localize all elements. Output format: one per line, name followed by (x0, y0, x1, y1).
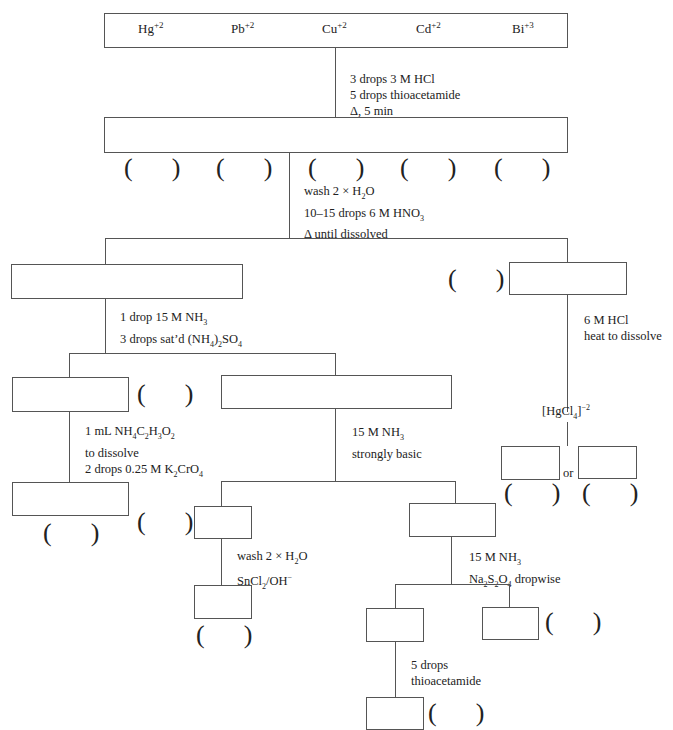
blank-formula-cd: ( ) (400, 155, 456, 181)
hg-test-result-box-2 (578, 446, 637, 479)
ion-charge: +2 (245, 20, 255, 30)
ion-cu: Cu+2 (322, 20, 347, 37)
reagent-line: 15 M NH3 (352, 424, 422, 446)
connector-line (567, 238, 568, 262)
text: 10–15 drops 6 M HNO (304, 206, 420, 220)
text: 2 (171, 432, 175, 441)
hg-test-result-box-1 (501, 446, 560, 480)
text: 3 (517, 558, 521, 567)
split-line (395, 584, 510, 585)
bi-precipitate-box (194, 506, 252, 539)
cds-precipitate-box (366, 697, 424, 730)
solution-cu-cd-bi-box (221, 375, 452, 409)
ion-charge: +3 (524, 20, 534, 30)
reagent-line: 6 M HCl (584, 312, 662, 328)
text: 3 drops sat’d (NH (120, 332, 210, 346)
reagent-line: wash 2 × H2O (304, 183, 424, 205)
step-hg-reagents: 6 M HCl heat to dissolve (584, 312, 662, 344)
solution-cu-cd-box (409, 503, 496, 537)
connector-line (395, 584, 396, 608)
reagent-line: 3 drops sat’d (NH4)2SO4 (120, 331, 242, 353)
sulfide-precipitate-box (104, 117, 568, 153)
ion-symbol: Hg (138, 21, 154, 36)
ion-charge: +2 (337, 20, 347, 30)
text: wash 2 × H (237, 549, 294, 563)
step3-reagents: 1 drop 15 M NH3 3 drops sat’d (NH4)2SO4 (120, 309, 242, 352)
reagent-line: 1 drop 15 M NH3 (120, 309, 242, 331)
blank-formula-pbcro4: ( ) (43, 520, 99, 546)
connector-line (335, 408, 336, 482)
text: 4 (199, 469, 203, 478)
connector-line (509, 584, 510, 607)
blank-formula-cu: ( ) (308, 155, 364, 181)
ion-charge: +2 (154, 20, 164, 30)
text: H (149, 424, 158, 438)
connector-line (451, 536, 452, 585)
blank-formula-hgs: ( ) (448, 266, 504, 292)
ion-hg: Hg+2 (138, 20, 163, 37)
step2-reagents: wash 2 × H2O 10–15 drops 6 M HNO3 Δ unti… (304, 183, 424, 242)
step1-reagents: 3 drops 3 M HCl 5 drops thioacetamide Δ,… (350, 71, 460, 119)
text: −2 (581, 403, 590, 412)
connector-line (567, 294, 568, 412)
split-line (221, 481, 456, 482)
pbcro4-precipitate-box (12, 482, 129, 516)
blank-formula-bioh3: ( ) (137, 509, 193, 535)
ion-charge: +2 (431, 20, 441, 30)
reagent-line: to dissolve (85, 445, 203, 461)
bi-metal-box (194, 585, 252, 619)
text: O (162, 424, 171, 438)
text: CrO (178, 462, 200, 476)
reagent-line: heat to dissolve (584, 328, 662, 344)
connector-line (335, 47, 336, 118)
text: /OH (266, 574, 288, 588)
text: wash 2 × H (304, 184, 361, 198)
blank-formula-pb: ( ) (216, 155, 272, 181)
text: C (136, 424, 144, 438)
connector-line (335, 353, 336, 376)
reagent-line: 3 drops 3 M HCl (350, 71, 460, 87)
ion-symbol: Cu (322, 21, 337, 36)
ion-cd: Cd+2 (416, 20, 441, 37)
connector-line (105, 238, 106, 265)
blank-formula-cds: ( ) (428, 700, 484, 726)
reagent-line: 2 drops 0.25 M K2CrO4 (85, 461, 203, 483)
solution-pb-cu-cd-bi-box (11, 264, 243, 299)
blank-formula-bi-metal: ( ) (196, 622, 252, 648)
hgcl4-complex-label: [HgCl4]−2 (542, 400, 590, 425)
reagent-line: 10–15 drops 6 M HNO3 (304, 205, 424, 227)
reagent-line: Na2S2O4 dropwise (469, 571, 561, 593)
split-line (105, 238, 568, 239)
text: O (365, 184, 374, 198)
text: SO (222, 332, 238, 346)
reagent-line: 5 drops (411, 657, 481, 673)
text: 1 drop 15 M NH (120, 310, 203, 324)
reagent-line: strongly basic (352, 446, 422, 462)
ion-pb: Pb+2 (231, 20, 254, 37)
blank-formula-hg-result-1: ( ) (504, 480, 560, 506)
connector-line (289, 153, 290, 239)
ion-symbol: Bi (512, 21, 524, 36)
connector-line (105, 298, 106, 354)
blank-formula-cu-metal: ( ) (545, 609, 601, 635)
ion-bi: Bi+3 (512, 20, 534, 37)
reagent-line: wash 2 × H2O (237, 548, 307, 570)
connector-line (221, 481, 222, 506)
reagent-line: thioacetamide (411, 673, 481, 689)
text: dropwise (512, 572, 561, 586)
blank-formula-pbso4: ( ) (137, 381, 193, 407)
reagent-line: 5 drops thioacetamide (350, 87, 460, 103)
blank-formula-bi: ( ) (494, 155, 550, 181)
text: 3 (400, 433, 404, 442)
or-label: or (563, 466, 573, 481)
pbso4-precipitate-box (12, 377, 129, 412)
connector-line (395, 641, 396, 697)
cd-solution-box (366, 608, 424, 642)
ion-symbol: Pb (231, 21, 245, 36)
connector-line (69, 353, 70, 378)
reagent-line: 15 M NH3 (469, 549, 561, 571)
text: O (298, 549, 307, 563)
text: 3 (420, 213, 424, 222)
text: [HgCl (542, 404, 573, 418)
reagent-line: 1 mL NH4C2H3O2 (85, 423, 203, 445)
